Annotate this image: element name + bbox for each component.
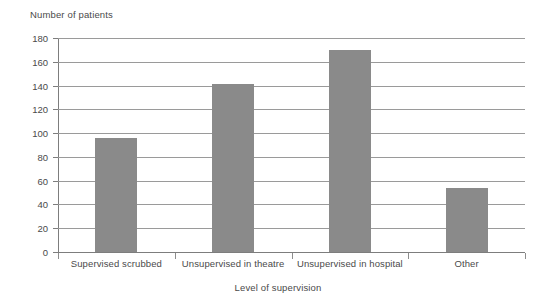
bar xyxy=(329,50,371,252)
y-axis-tick-mark xyxy=(53,181,58,182)
x-axis-title: Level of supervision xyxy=(0,282,556,293)
x-axis-separator-tick xyxy=(292,253,293,259)
y-axis-tick-mark xyxy=(53,157,58,158)
x-axis-end-tick xyxy=(58,253,59,259)
bar xyxy=(212,84,254,252)
plot-area xyxy=(58,38,525,252)
y-axis-tick-mark xyxy=(53,109,58,110)
bar xyxy=(95,138,137,252)
bar-chart: Number of patients 020406080100120140160… xyxy=(0,0,556,298)
y-axis-tick-label: 0 xyxy=(14,247,48,258)
gridline xyxy=(58,109,525,110)
gridline xyxy=(58,38,525,39)
y-axis-tick-labels: 020406080100120140160180 xyxy=(0,0,48,298)
y-axis-tick-mark xyxy=(53,86,58,87)
y-axis-tick-mark xyxy=(53,228,58,229)
y-axis-tick-mark xyxy=(53,62,58,63)
y-axis-tick-mark xyxy=(53,133,58,134)
x-axis-separator-tick xyxy=(408,253,409,259)
y-axis-tick-label: 160 xyxy=(14,56,48,67)
y-axis-tick-label: 60 xyxy=(14,175,48,186)
y-axis-tick-mark xyxy=(53,38,58,39)
x-axis-separator-tick xyxy=(175,253,176,259)
gridline xyxy=(58,62,525,63)
gridline xyxy=(58,86,525,87)
gridline xyxy=(58,133,525,134)
y-axis-tick-label: 120 xyxy=(14,104,48,115)
y-axis-tick-label: 100 xyxy=(14,128,48,139)
y-axis-tick-label: 40 xyxy=(14,199,48,210)
y-axis-tick-label: 140 xyxy=(14,80,48,91)
y-axis-tick-label: 80 xyxy=(14,151,48,162)
x-axis-category-label: Other xyxy=(454,258,478,269)
x-axis-category-label: Unsupervised in hospital xyxy=(297,258,403,269)
x-axis-end-tick xyxy=(525,253,526,259)
x-axis-category-label: Supervised scrubbed xyxy=(71,258,162,269)
y-axis-tick-mark xyxy=(53,204,58,205)
y-axis-tick-label: 180 xyxy=(14,33,48,44)
y-axis-tick-label: 20 xyxy=(14,223,48,234)
bar xyxy=(446,188,488,252)
x-axis-category-label: Unsupervised in theatre xyxy=(182,258,285,269)
